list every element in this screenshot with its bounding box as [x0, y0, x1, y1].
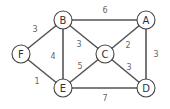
weight-e-d: 7 — [102, 94, 107, 103]
weight-b-c: 3 — [76, 40, 81, 49]
weight-c-e: 5 — [77, 62, 82, 71]
node-b-label: B — [60, 15, 67, 26]
weight-a-c: 2 — [125, 41, 130, 50]
weight-a-d: 3 — [153, 50, 158, 59]
node-f-label: F — [18, 49, 24, 60]
node-d-label: D — [142, 83, 150, 94]
weight-f-b: 3 — [32, 25, 37, 34]
node-c: C — [96, 45, 114, 63]
weight-b-e: 4 — [50, 52, 55, 61]
weight-f-e: 1 — [34, 77, 39, 86]
node-b: B — [54, 11, 72, 29]
node-a-label: A — [143, 15, 150, 26]
weight-c-d: 3 — [126, 63, 131, 72]
node-e-label: E — [60, 83, 66, 94]
node-d: D — [137, 79, 155, 97]
node-e: E — [54, 79, 72, 97]
weight-b-a: 6 — [102, 6, 107, 15]
node-c-label: C — [102, 49, 109, 60]
node-a: A — [137, 11, 155, 29]
node-f: F — [12, 45, 30, 63]
weighted-graph-diagram: 6 3 4 3 2 3 5 3 1 7 A B C D E F — [0, 0, 170, 109]
